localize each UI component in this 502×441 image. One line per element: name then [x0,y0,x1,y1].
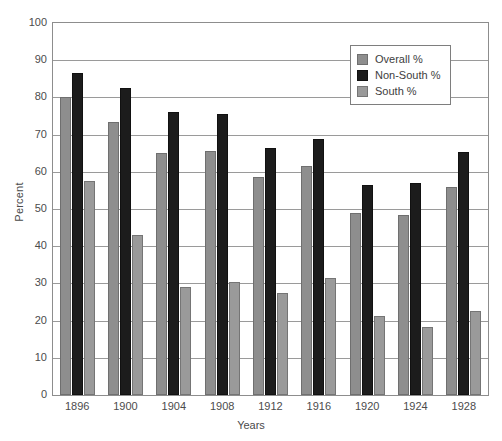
x-axis-tick-label: 1928 [440,400,488,412]
y-axis-tick-label: 50 [3,202,47,214]
legend-label: Overall % [375,53,423,65]
x-axis-tick-label: 1900 [101,400,149,412]
legend-swatch-icon [357,86,368,97]
bar [72,73,83,395]
bar-group [150,23,198,395]
bar [60,97,71,395]
bar [168,112,179,395]
bar [277,293,288,395]
bar [156,153,167,395]
x-axis-tick-label: 1924 [391,400,439,412]
y-axis-tick-label: 80 [3,90,47,102]
bar [265,148,276,395]
x-axis-title: Years [0,419,502,431]
bar [458,152,469,395]
y-axis-tick-label: 100 [3,16,47,28]
legend-swatch-icon [357,70,368,81]
bar-group [53,23,101,395]
legend-item: Overall % [357,51,440,67]
bar [205,151,216,395]
x-axis-tick-label: 1908 [198,400,246,412]
bar [398,215,409,395]
bar [362,185,373,395]
y-axis-tick-label: 30 [3,276,47,288]
bar-group [246,23,294,395]
bar [217,114,228,395]
y-axis-tick-label: 40 [3,239,47,251]
x-axis-tick-label: 1896 [53,400,101,412]
y-axis-tick-label: 0 [3,388,47,400]
y-axis-tick-label: 10 [3,351,47,363]
y-axis-tick-label: 90 [3,53,47,65]
bar [470,311,481,395]
legend-item: Non-South % [357,67,440,83]
legend-label: South % [375,85,417,97]
y-axis-tick-label: 20 [3,314,47,326]
bar [120,88,131,395]
chart-legend: Overall %Non-South %South % [350,45,451,105]
bar-group [101,23,149,395]
legend-swatch-icon [357,54,368,65]
x-axis-tick-label: 1904 [150,400,198,412]
bar-group [295,23,343,395]
bar [350,213,361,395]
bar [108,122,119,395]
x-axis-tick-label: 1912 [246,400,294,412]
bar [422,327,433,395]
bar [180,287,191,395]
bar [253,177,264,395]
x-axis-tick-labels: 189619001904190819121916192019241928 [53,400,488,416]
bar [313,139,324,395]
bar [84,181,95,395]
bar [446,187,457,395]
bar [410,183,421,395]
bar-chart: Percent 1009080706050403020100 189619001… [0,0,502,441]
x-axis-tick-label: 1920 [343,400,391,412]
y-axis-tick-labels: 1009080706050403020100 [0,22,47,396]
bar [325,278,336,395]
legend-label: Non-South % [375,69,440,81]
x-axis-tick-label: 1916 [295,400,343,412]
bar [229,282,240,395]
bar [301,166,312,395]
bar [132,235,143,395]
bar [374,316,385,395]
y-axis-tick-label: 60 [3,165,47,177]
bar-group [198,23,246,395]
legend-item: South % [357,83,440,99]
y-axis-tick-label: 70 [3,128,47,140]
